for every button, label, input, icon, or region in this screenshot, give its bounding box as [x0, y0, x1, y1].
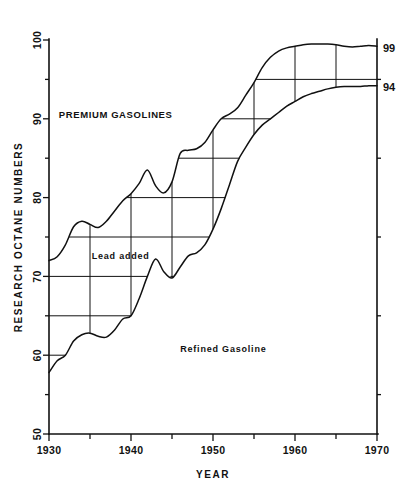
x-tick-label: 1970 [365, 444, 390, 456]
y-tick-label: 100 [31, 31, 43, 50]
x-axis-title: YEAR [196, 469, 230, 480]
x-tick-label: 1940 [119, 444, 144, 456]
annotation-premium-gasolines: PREMIUM GASOLINES [59, 109, 173, 120]
x-axis-ticks [49, 434, 377, 441]
annotation-refined-gasoline: Refined Gasoline [180, 344, 266, 354]
y-axis-tick-labels: 5060708090100 [31, 31, 43, 441]
x-tick-label: 1930 [37, 444, 62, 456]
y-tick-label: 60 [31, 349, 43, 361]
figure-container: 5060708090100 19301940195019601970 9994 … [0, 0, 411, 502]
end-label-99: 99 [383, 42, 395, 54]
end-label-94: 94 [383, 81, 396, 93]
y-tick-label: 50 [31, 428, 43, 440]
chart-gridlines [49, 45, 377, 355]
y-axis-title: RESEARCH OCTANE NUMBERS [13, 142, 24, 333]
y-tick-label: 70 [31, 270, 43, 282]
x-tick-label: 1960 [283, 444, 308, 456]
x-axis-tick-labels: 19301940195019601970 [37, 444, 390, 456]
series-end-labels: 9994 [383, 42, 396, 93]
octane-number-line-chart: 5060708090100 19301940195019601970 9994 … [0, 0, 411, 502]
annotation-lead-added: Lead added [92, 251, 150, 261]
x-tick-label: 1950 [201, 444, 226, 456]
y-tick-label: 80 [31, 191, 43, 203]
y-tick-label: 90 [31, 113, 43, 125]
